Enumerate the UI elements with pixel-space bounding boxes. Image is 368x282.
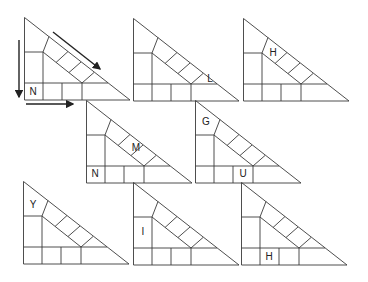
triangle-piece-6: Y bbox=[23, 181, 131, 267]
triangle-grid bbox=[133, 18, 241, 104]
triangle-grid bbox=[23, 181, 131, 267]
cell-letter-bottom-1: N bbox=[29, 87, 36, 97]
triangle-piece-8: H bbox=[241, 182, 349, 268]
cell-letter-bottom-1: N bbox=[91, 169, 98, 179]
triangle-grid bbox=[241, 182, 349, 268]
cell-letter-bottom-2: H bbox=[265, 252, 272, 262]
triangle-piece-1: N bbox=[24, 17, 132, 103]
cell-letter-top-left: Y bbox=[30, 200, 37, 210]
triangle-grid bbox=[195, 100, 303, 186]
cell-letter-left-column: I bbox=[142, 227, 145, 237]
triangle-grid bbox=[243, 18, 351, 104]
triangle-piece-2: L bbox=[133, 18, 241, 104]
triangle-piece-3: H bbox=[243, 18, 351, 104]
cell-letter-diagonal-2: M bbox=[132, 143, 140, 153]
triangle-piece-7: I bbox=[133, 182, 241, 268]
cell-letter-diagonal-end: L bbox=[207, 74, 213, 84]
cell-letter-bottom-3: U bbox=[239, 169, 246, 179]
triangle-piece-5: GU bbox=[195, 100, 303, 186]
triangle-puzzle-diagram: N L bbox=[0, 0, 368, 282]
triangle-grid bbox=[133, 182, 241, 268]
triangle-grid bbox=[24, 17, 132, 103]
cell-letter-diagonal-1: H bbox=[269, 48, 276, 58]
cell-letter-top-left: G bbox=[202, 117, 210, 127]
triangle-piece-4: MN bbox=[86, 100, 194, 186]
